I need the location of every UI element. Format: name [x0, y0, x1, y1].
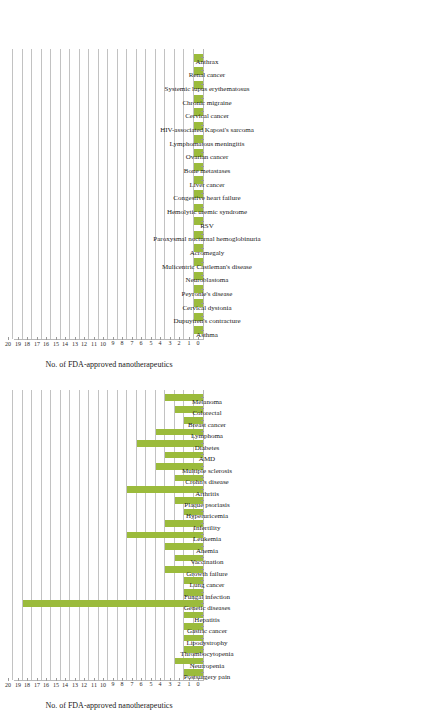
bar-slot[interactable]: [14, 552, 203, 563]
category-label: Neuroblastoma: [186, 276, 229, 284]
bar-slot[interactable]: [14, 598, 203, 609]
category-slot[interactable]: RSV: [205, 215, 415, 229]
tick-label: 8: [121, 681, 124, 687]
bar[interactable]: [127, 532, 203, 539]
category-slot[interactable]: Dupuytren's contracture: [205, 311, 415, 325]
bar-slot[interactable]: [14, 65, 203, 79]
category-slot[interactable]: Renal cancer: [205, 65, 415, 79]
bar-slot[interactable]: [14, 296, 203, 310]
bar-slot[interactable]: [14, 214, 203, 228]
category-slot[interactable]: Acromegaly: [205, 242, 415, 256]
bar-slot[interactable]: [14, 426, 203, 437]
category-slot[interactable]: Hyperuricemia: [205, 507, 415, 518]
bar-slot[interactable]: [14, 484, 203, 495]
category-slot[interactable]: Chronic migraine: [205, 92, 415, 106]
category-label: Plaque psoriasis: [184, 501, 229, 509]
bar-slot[interactable]: [14, 438, 203, 449]
tick-label: 16: [43, 682, 49, 688]
bar-slot[interactable]: [14, 632, 203, 643]
category-slot[interactable]: Breast cancer: [205, 415, 415, 426]
bar-slot[interactable]: [14, 461, 203, 472]
category-slot[interactable]: Crohn's disease: [205, 472, 415, 483]
bar[interactable]: [127, 486, 203, 493]
category-slot[interactable]: Paroxysmal nocturnal hemoglobinuria: [205, 229, 415, 243]
bar-slot[interactable]: [14, 242, 203, 256]
category-slot[interactable]: Ovarian cancer: [205, 147, 415, 161]
category-slot[interactable]: Asthma: [205, 324, 415, 338]
category-slot[interactable]: Postsurgery pain: [205, 668, 415, 679]
category-slot[interactable]: Leukemia: [205, 530, 415, 541]
category-slot[interactable]: Fungal infection: [205, 587, 415, 598]
bar-slot[interactable]: [14, 449, 203, 460]
bar-slot[interactable]: [14, 655, 203, 666]
bar-slot[interactable]: [14, 323, 203, 337]
bar-slot[interactable]: [14, 105, 203, 119]
bar-slot[interactable]: [14, 51, 203, 65]
category-slot[interactable]: Lung cancer: [205, 576, 415, 587]
category-slot[interactable]: Melanoma: [205, 392, 415, 403]
category-slot[interactable]: Infertility: [205, 518, 415, 529]
category-label: Hemolytic uremic syndrome: [167, 208, 247, 216]
bar-slot[interactable]: [14, 587, 203, 598]
category-slot[interactable]: Multiple sclerosis: [205, 461, 415, 472]
category-slot[interactable]: Cervical cancer: [205, 106, 415, 120]
category-slot[interactable]: Systemic lupus erythematosus: [205, 78, 415, 92]
bar-slot[interactable]: [14, 146, 203, 160]
category-slot[interactable]: Colorectal: [205, 403, 415, 414]
bar-slot[interactable]: [14, 404, 203, 415]
category-slot[interactable]: Arthritis: [205, 484, 415, 495]
category-slot[interactable]: Hemolytic uremic syndrome: [205, 201, 415, 215]
bar-slot[interactable]: [14, 472, 203, 483]
category-slot[interactable]: Hepatitis: [205, 610, 415, 621]
bar-slot[interactable]: [14, 415, 203, 426]
bar-slot[interactable]: [14, 518, 203, 529]
tick-label: 1: [187, 681, 190, 687]
bar-slot[interactable]: [14, 644, 203, 655]
category-slot[interactable]: Plaque psoriasis: [205, 495, 415, 506]
category-slot[interactable]: Lipodystrophy: [205, 633, 415, 644]
category-slot[interactable]: Congestive heart failure: [205, 188, 415, 202]
category-slot[interactable]: Diabetes: [205, 438, 415, 449]
category-slot[interactable]: Genetic diseases: [205, 599, 415, 610]
bar-slot[interactable]: [14, 667, 203, 678]
bar-slot[interactable]: [14, 541, 203, 552]
category-slot[interactable]: Gastric cancer: [205, 622, 415, 633]
category-label: Bone metastases: [184, 167, 230, 175]
category-slot[interactable]: Anemia: [205, 541, 415, 552]
bar-slot[interactable]: [14, 506, 203, 517]
bar-slot[interactable]: [14, 621, 203, 632]
category-slot[interactable]: Cervical dystonia: [205, 297, 415, 311]
category-slot[interactable]: Thrombocytopenia: [205, 645, 415, 656]
bar-slot[interactable]: [14, 529, 203, 540]
bar[interactable]: [137, 440, 204, 447]
bar-slot[interactable]: [14, 174, 203, 188]
rotated-chart-wrapper-top: 01234567891011121314151617181920 No. of …: [0, 0, 428, 340]
category-label: Thrombocytopenia: [180, 650, 233, 658]
category-label: Colorectal: [192, 409, 221, 417]
bar-slot[interactable]: [14, 283, 203, 297]
category-slot[interactable]: Bone metastases: [205, 160, 415, 174]
category-slot[interactable]: Lymphoma: [205, 426, 415, 437]
bar-slot[interactable]: [14, 575, 203, 586]
category-slot[interactable]: Peyronie's disease: [205, 283, 415, 297]
category-slot[interactable]: Anthrax: [205, 51, 415, 65]
category-slot[interactable]: Vaccination: [205, 553, 415, 564]
category-slot[interactable]: Lymphomatous meningitis: [205, 133, 415, 147]
category-slot[interactable]: Neuroblastoma: [205, 270, 415, 284]
tick-mark: [75, 678, 76, 681]
bar-slot[interactable]: [14, 160, 203, 174]
category-slot[interactable]: HIV-associated Kaposi's sarcoma: [205, 119, 415, 133]
tick-label: 14: [62, 682, 68, 688]
bar-slot[interactable]: [14, 609, 203, 620]
bar[interactable]: [23, 600, 204, 607]
bar-slot[interactable]: [14, 495, 203, 506]
bar[interactable]: [165, 452, 203, 459]
category-slot[interactable]: Neutropenia: [205, 656, 415, 667]
bar-slot[interactable]: [14, 92, 203, 106]
category-slot[interactable]: Mulicentric Castleman's disease: [205, 256, 415, 270]
bar-slot[interactable]: [14, 564, 203, 575]
category-slot[interactable]: AMD: [205, 449, 415, 460]
category-slot[interactable]: Liver cancer: [205, 174, 415, 188]
category-slot[interactable]: Growth failure: [205, 564, 415, 575]
bar-slot[interactable]: [14, 392, 203, 403]
